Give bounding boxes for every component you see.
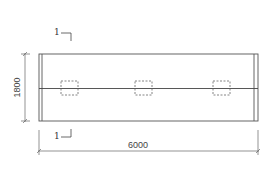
dimension-vertical <box>21 52 30 123</box>
section-label-bottom: 1 <box>54 132 60 141</box>
dimension-horizontal <box>37 130 260 155</box>
opening-middle <box>135 81 152 95</box>
opening-left <box>61 81 78 95</box>
slab-outline <box>39 54 258 121</box>
height-dimension-label: 1800 <box>13 76 22 100</box>
section-label-top: 1 <box>54 28 60 37</box>
width-dimension-label: 6000 <box>128 141 148 150</box>
opening-right <box>213 81 230 95</box>
openings <box>61 81 230 95</box>
